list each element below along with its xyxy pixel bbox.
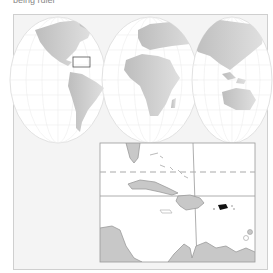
inset-map [100, 143, 255, 262]
world-map [0, 0, 273, 273]
